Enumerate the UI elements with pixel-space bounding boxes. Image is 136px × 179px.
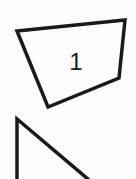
shapes-svg: 1 — [0, 0, 136, 179]
triangle-shape — [17, 119, 95, 179]
shape-label-1: 1 — [69, 48, 82, 75]
diagram-canvas: 1 — [0, 0, 136, 179]
